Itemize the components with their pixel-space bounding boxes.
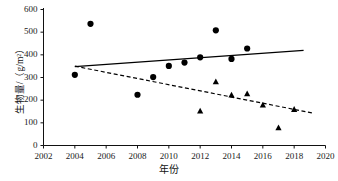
biomass-year-scatter-chart: 生物量/（g/m²） 年份 01002003004005006002002200… [0,0,338,181]
data-point-circle [181,59,187,65]
data-point-circle [166,63,172,69]
x-tick-label: 2012 [183,151,217,161]
x-tick-label: 2018 [277,151,311,161]
data-point-triangle [260,102,266,108]
y-tick-label: 100 [2,117,38,127]
x-tick-label: 2006 [89,151,123,161]
x-tick-label: 2010 [152,151,186,161]
y-tick-label: 0 [2,140,38,150]
data-point-circle [87,21,93,27]
x-tick-label: 2002 [27,151,61,161]
data-point-circle [72,72,78,78]
data-point-circle [150,74,156,80]
data-point-circle [134,92,140,98]
x-tick-label: 2004 [58,151,92,161]
y-tick-label: 600 [2,4,38,14]
data-point-circle [213,27,219,33]
y-tick-label: 500 [2,26,38,36]
x-tick-label: 2016 [246,151,280,161]
data-point-triangle [244,90,250,96]
data-point-triangle [213,78,219,84]
x-tick-label: 2008 [121,151,155,161]
x-axis-label: 年份 [0,161,338,176]
x-tick-label: 2020 [309,151,338,161]
circle-trend-solid [75,50,304,66]
y-tick-label: 400 [2,49,38,59]
y-tick-label: 200 [2,94,38,104]
data-point-triangle [228,92,234,98]
y-tick-label: 300 [2,72,38,82]
data-point-triangle [197,108,203,114]
data-point-circle [228,56,234,62]
data-point-triangle [275,124,281,130]
data-point-circle [197,54,203,60]
data-point-circle [244,45,250,51]
triangle-trend-dashed [75,66,313,113]
x-tick-label: 2014 [215,151,249,161]
